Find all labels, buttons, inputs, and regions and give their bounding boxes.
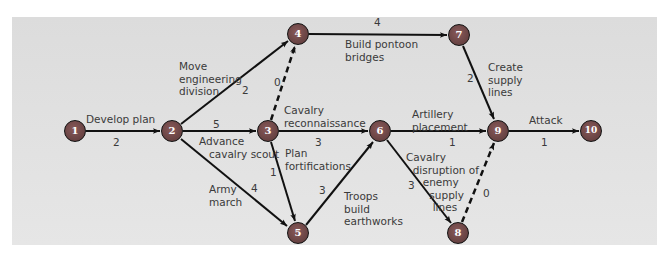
- activity-label-develop-plan: Develop plan: [86, 113, 155, 126]
- activity-label-create-supply-lines: Create supply lines: [488, 61, 523, 99]
- duration-3-5: 1: [270, 166, 277, 178]
- node-8: 8: [447, 222, 469, 244]
- node-10: 10: [580, 120, 602, 142]
- activity-label-advance-cavalry-scout: Advance cavalry scout: [199, 135, 279, 160]
- duration-4-7: 4: [374, 16, 381, 28]
- node-9: 9: [487, 120, 509, 142]
- activity-label-army-march: Army march: [209, 183, 242, 208]
- arrow-4-7: [309, 34, 447, 35]
- activity-label-cavalry-disruption-of-enemy-supply-lines: Cavalry disruption of enemy supply lines: [406, 151, 479, 214]
- duration-2-4: 2: [242, 84, 249, 96]
- node-7: 7: [448, 24, 470, 46]
- activity-label-plan-fortifications: Plan fortifications: [285, 147, 351, 172]
- duration-dummy-8-9: 0: [483, 187, 490, 199]
- duration-dummy-3-4: 0: [274, 76, 281, 88]
- activity-label-move-engineering-division: Move engineering division: [179, 60, 242, 98]
- activity-label-attack: Attack: [529, 114, 563, 127]
- node-2: 2: [161, 120, 183, 142]
- activity-label-build-pontoon-bridges: Build pontoon bridges: [345, 38, 418, 63]
- activity-label-troops-build-earthworks: Troops build earthworks: [344, 190, 403, 228]
- node-5: 5: [287, 222, 309, 244]
- duration-9-10: 1: [541, 136, 548, 148]
- duration-7-9: 2: [467, 72, 474, 84]
- network-arrows: [0, 0, 671, 261]
- duration-5-6: 3: [319, 184, 326, 196]
- duration-1-2: 2: [113, 136, 120, 148]
- duration-6-8: 3: [408, 179, 415, 191]
- activity-label-cavalry-reconnaissance: Cavalry reconnaissance: [284, 104, 366, 129]
- duration-2-3: 5: [213, 118, 220, 130]
- duration-2-5: 4: [251, 182, 258, 194]
- duration-6-9: 1: [449, 136, 456, 148]
- node-4: 4: [287, 23, 309, 45]
- node-1: 1: [64, 120, 86, 142]
- node-6: 6: [369, 120, 391, 142]
- activity-label-artillery-placement: Artillery placement: [412, 108, 468, 133]
